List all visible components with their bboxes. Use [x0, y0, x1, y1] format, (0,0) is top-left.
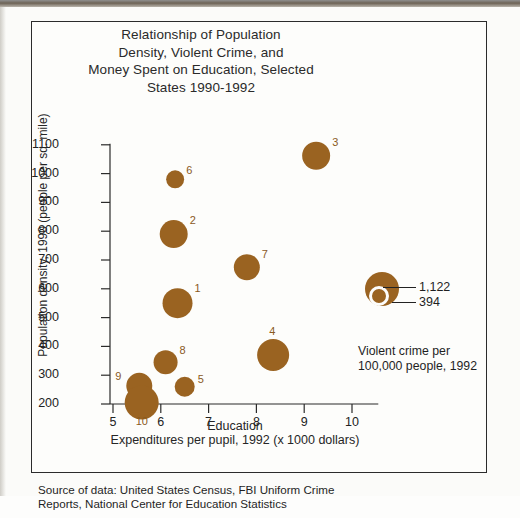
size-legend-small-circle [369, 286, 389, 306]
bubble-2[interactable] [160, 220, 188, 248]
source-note: Source of data: United States Census, FB… [38, 483, 334, 510]
size-legend-leader-large [383, 287, 416, 288]
size-legend-leader-small [392, 302, 416, 303]
annotation-line-1: Violent crime per [358, 344, 508, 359]
x-axis-label-expenditures: Expenditures per pupil, 1992 (x 1000 dol… [45, 433, 425, 447]
size-legend-large-value: 1,122 [419, 280, 450, 294]
bubble-4[interactable] [257, 339, 289, 371]
violent-crime-annotation: Violent crime per 100,000 people, 1992 [358, 344, 508, 374]
source-line-1: Source of data: United States Census, FB… [38, 483, 334, 497]
bubble-8[interactable] [154, 350, 178, 374]
bubble-7[interactable] [234, 254, 260, 280]
x-axis-label-education: Education [120, 419, 350, 433]
bubble-1[interactable] [163, 288, 193, 318]
scanned-page: Relationship of Population Density, Viol… [0, 0, 520, 518]
bubble-6[interactable] [166, 170, 184, 188]
bubble-5[interactable] [175, 377, 195, 397]
bubble-10[interactable] [125, 386, 159, 420]
source-line-2: Reports, National Center for Education S… [38, 497, 334, 511]
bubble-size-legend: 1,122 394 [365, 272, 515, 320]
bubble-3[interactable] [302, 142, 330, 170]
annotation-line-2: 100,000 people, 1992 [358, 359, 508, 374]
size-legend-small-value: 394 [419, 295, 440, 309]
